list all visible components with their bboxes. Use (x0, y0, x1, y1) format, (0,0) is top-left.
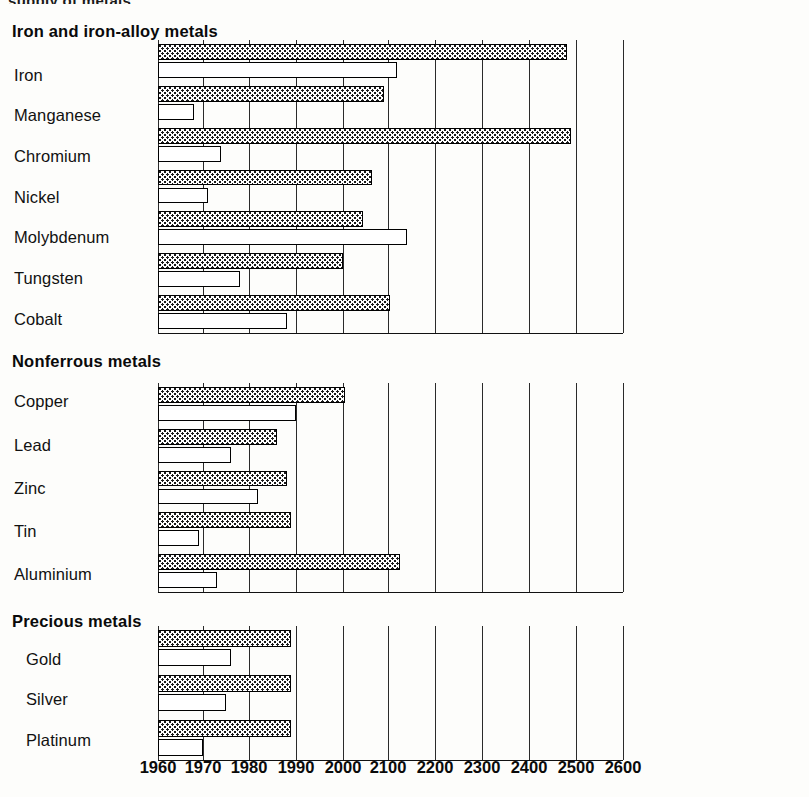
bar-hollow-silver (158, 694, 226, 711)
gridline-2000 (343, 40, 344, 333)
gridline-2300 (482, 40, 483, 333)
bar-hollow-zinc (158, 489, 258, 505)
axis-baseline-1 (158, 592, 623, 593)
x-tick-1990: 1990 (278, 758, 315, 777)
bar-stippled-manganese (158, 86, 384, 102)
axis-baseline-0 (158, 333, 623, 334)
x-tick-2500: 2500 (558, 758, 595, 777)
gridline-2400 (529, 40, 530, 333)
gridline-2000 (343, 626, 344, 760)
bar-hollow-aluminium (158, 572, 217, 588)
chart-sheet: supply of metals Iron and iron-alloy met… (0, 0, 809, 797)
x-tick-1960: 1960 (140, 758, 177, 777)
bar-stippled-lead (158, 429, 277, 445)
bar-hollow-lead (158, 447, 231, 463)
gridline-1980 (249, 40, 250, 333)
bar-hollow-platinum (158, 739, 203, 756)
gridline-2200 (435, 383, 436, 592)
gridline-2500 (576, 626, 577, 760)
bar-stippled-molybdenum (158, 211, 363, 227)
bar-stippled-nickel (158, 170, 372, 186)
gridline-2300 (482, 626, 483, 760)
bar-hollow-gold (158, 649, 231, 666)
gridline-2600 (623, 383, 624, 592)
bar-stippled-silver (158, 675, 291, 692)
gridline-2100 (388, 40, 389, 333)
gridline-2200 (435, 626, 436, 760)
bar-stippled-chromium (158, 128, 571, 144)
bar-hollow-nickel (158, 188, 208, 204)
bar-stippled-cobalt (158, 295, 390, 311)
bar-stippled-tin (158, 512, 291, 528)
bar-stippled-platinum (158, 720, 291, 737)
gridline-1960 (158, 40, 159, 333)
x-axis-tick-labels: 1960197019801990200021002200230024002500… (0, 758, 809, 786)
bar-hollow-molybdenum (158, 229, 407, 245)
x-tick-1970: 1970 (185, 758, 222, 777)
bar-stippled-gold (158, 630, 291, 647)
bar-stippled-tungsten (158, 253, 343, 269)
gridline-2600 (623, 40, 624, 333)
x-tick-2000: 2000 (325, 758, 362, 777)
bar-hollow-tungsten (158, 271, 240, 287)
gridline-1970 (203, 40, 204, 333)
x-tick-2200: 2200 (417, 758, 454, 777)
gridline-2400 (529, 626, 530, 760)
gridline-2100 (388, 626, 389, 760)
bar-stippled-iron (158, 44, 567, 60)
gridline-2500 (576, 383, 577, 592)
gridline-2500 (576, 40, 577, 333)
x-tick-2100: 2100 (370, 758, 407, 777)
bar-hollow-iron (158, 62, 397, 78)
bar-hollow-cobalt (158, 313, 287, 329)
x-tick-2300: 2300 (464, 758, 501, 777)
x-tick-1980: 1980 (231, 758, 268, 777)
gridline-2600 (623, 626, 624, 760)
gridline-2200 (435, 40, 436, 333)
bar-stippled-zinc (158, 471, 287, 487)
gridline-1990 (296, 626, 297, 760)
plot-area (0, 0, 809, 797)
x-tick-2600: 2600 (605, 758, 642, 777)
bar-hollow-chromium (158, 146, 221, 162)
bar-stippled-aluminium (158, 554, 400, 570)
x-tick-2400: 2400 (511, 758, 548, 777)
gridline-2300 (482, 383, 483, 592)
bar-stippled-copper (158, 387, 345, 403)
gridline-1990 (296, 40, 297, 333)
gridline-2400 (529, 383, 530, 592)
bar-hollow-copper (158, 405, 296, 421)
bar-hollow-manganese (158, 104, 194, 120)
bar-hollow-tin (158, 530, 199, 546)
